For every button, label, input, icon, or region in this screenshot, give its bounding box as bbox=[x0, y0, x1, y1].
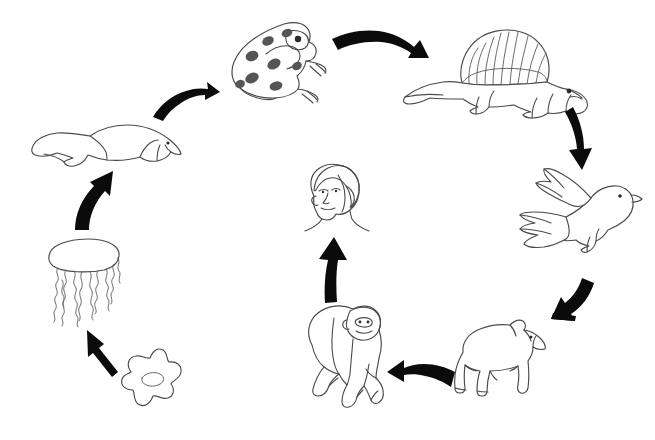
organism-ape bbox=[309, 306, 384, 407]
evolution-cycle-diagram bbox=[0, 0, 655, 440]
diagram-canvas: amoeba jellyfish fish frog dimetrodon bi… bbox=[0, 0, 655, 440]
